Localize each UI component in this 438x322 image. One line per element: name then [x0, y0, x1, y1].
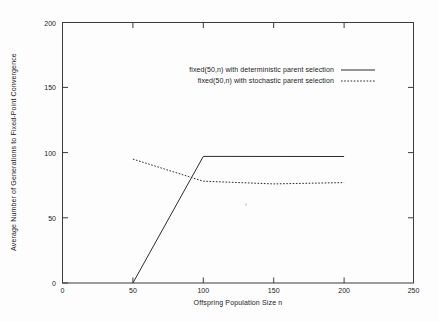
legend-label-stochastic: fixed(50,n) with stochastic parent selec… [198, 77, 334, 84]
scan-artifact-speck [245, 203, 247, 206]
x-tick-label-250: 250 [408, 287, 420, 294]
y-tick-label-200: 200 [38, 19, 56, 26]
legend-key-dotted-icon [341, 77, 375, 85]
series-line-deterministic [133, 156, 344, 283]
x-axis-ticks-top [133, 23, 344, 29]
y-axis-ticks-right [408, 87, 414, 217]
plot-canvas [0, 0, 438, 322]
legend-label-deterministic: fixed(50,n) with deterministic parent se… [189, 66, 334, 73]
chart-figure: 0 50 100 150 200 250 0 50 100 150 200 Of… [0, 0, 438, 322]
legend-entry-deterministic: fixed(50,n) with deterministic parent se… [150, 64, 375, 75]
x-tick-label-50: 50 [129, 287, 137, 294]
y-axis-label: Average Number of Generations to Fixed-P… [10, 53, 17, 251]
y-axis-ticks-left [63, 23, 69, 284]
chart-legend: fixed(50,n) with deterministic parent se… [150, 64, 375, 86]
x-tick-label-100: 100 [197, 287, 209, 294]
x-tick-label-0: 0 [61, 287, 65, 294]
y-tick-label-0: 0 [38, 280, 56, 287]
plot-frame [63, 23, 414, 284]
y-tick-label-150: 150 [38, 84, 56, 91]
series-line-stochastic [133, 159, 344, 184]
x-tick-label-150: 150 [268, 287, 280, 294]
legend-key-solid-icon [341, 66, 375, 74]
legend-entry-stochastic: fixed(50,n) with stochastic parent selec… [150, 75, 375, 86]
x-axis-ticks-bottom [63, 278, 414, 284]
x-tick-label-200: 200 [338, 287, 350, 294]
y-tick-label-50: 50 [38, 214, 56, 221]
y-tick-label-100: 100 [38, 149, 56, 156]
x-axis-label: Offspring Population Size n [194, 299, 283, 306]
